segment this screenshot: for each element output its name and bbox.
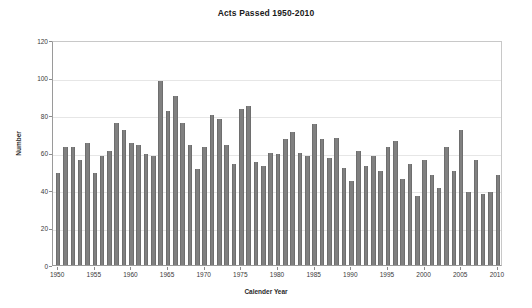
- bar: [151, 156, 156, 265]
- y-axis-tick-mark: [49, 154, 52, 155]
- bar: [268, 153, 273, 266]
- y-axis-tick-mark: [49, 79, 52, 80]
- chart-title: Acts Passed 1950-2010: [0, 8, 532, 18]
- chart-figure: Acts Passed 1950-2010 020406080100120 Nu…: [0, 0, 532, 308]
- bar: [305, 156, 310, 265]
- plot-area: [52, 41, 502, 266]
- bar: [202, 147, 207, 265]
- bar: [71, 147, 76, 265]
- x-axis-tick-mark: [314, 267, 315, 270]
- bar: [107, 151, 112, 265]
- x-axis-tick-label: 2010: [482, 271, 512, 278]
- y-axis-tick-labels: 020406080100120: [22, 41, 48, 266]
- bar: [144, 154, 149, 265]
- bar: [158, 81, 163, 265]
- y-axis-tick-mark: [49, 229, 52, 230]
- bar: [444, 147, 449, 265]
- y-axis-tick-label: 100: [26, 75, 48, 82]
- y-axis-tick-label: 40: [26, 188, 48, 195]
- x-axis-tick-label: 2000: [409, 271, 439, 278]
- x-axis-tick-mark: [57, 267, 58, 270]
- bar: [217, 119, 222, 265]
- x-axis-tick-label: 2005: [445, 271, 475, 278]
- bar: [246, 106, 251, 265]
- bar: [63, 147, 68, 265]
- x-axis-tick-mark: [424, 267, 425, 270]
- bar: [408, 164, 413, 265]
- bar: [298, 153, 303, 266]
- bar: [415, 196, 420, 265]
- x-axis-label: Calender Year: [0, 288, 532, 295]
- y-axis-tick-mark: [49, 41, 52, 42]
- x-axis-tick-mark: [387, 267, 388, 270]
- bar: [327, 158, 332, 265]
- x-axis-tick-label: 1950: [42, 271, 72, 278]
- bar: [386, 147, 391, 265]
- bar: [210, 115, 215, 265]
- bar: [356, 151, 361, 265]
- bar: [93, 173, 98, 265]
- x-axis-tick-label: 1955: [79, 271, 109, 278]
- bar: [129, 143, 134, 265]
- y-axis-tick-label: 120: [26, 38, 48, 45]
- x-axis-tick-labels: 1950195519601965197019751980198519901995…: [52, 267, 502, 281]
- y-axis-tick-label: 60: [26, 150, 48, 157]
- y-axis-tick-mark: [49, 266, 52, 267]
- bar: [276, 154, 281, 265]
- bar: [122, 130, 127, 265]
- bar: [239, 109, 244, 265]
- bar: [283, 139, 288, 265]
- x-axis-tick-label: 1985: [299, 271, 329, 278]
- x-axis-tick-mark: [350, 267, 351, 270]
- x-axis-tick-label: 1980: [262, 271, 292, 278]
- x-axis-tick-mark: [240, 267, 241, 270]
- bar: [452, 171, 457, 265]
- bar: [466, 192, 471, 265]
- bar: [474, 160, 479, 265]
- x-axis-tick-label: 1970: [189, 271, 219, 278]
- bar: [342, 168, 347, 266]
- bar: [188, 145, 193, 265]
- bar: [371, 156, 376, 265]
- bar: [488, 192, 493, 265]
- bar: [400, 179, 405, 265]
- x-axis-tick-label: 1975: [225, 271, 255, 278]
- x-axis-tick-label: 1960: [115, 271, 145, 278]
- bar: [290, 132, 295, 265]
- bar: [320, 139, 325, 265]
- x-axis-tick-label: 1965: [152, 271, 182, 278]
- y-axis-tick-mark: [49, 191, 52, 192]
- x-axis-tick-mark: [277, 267, 278, 270]
- bar: [114, 123, 119, 266]
- bar: [393, 141, 398, 265]
- x-axis-tick-mark: [94, 267, 95, 270]
- bar: [334, 138, 339, 266]
- bar: [496, 175, 501, 265]
- bar: [78, 160, 83, 265]
- bar: [437, 188, 442, 265]
- y-axis-tick-mark: [49, 116, 52, 117]
- bar: [459, 130, 464, 265]
- bar: [481, 194, 486, 265]
- bar: [349, 181, 354, 265]
- bar: [195, 169, 200, 265]
- x-axis-tick-label: 1990: [335, 271, 365, 278]
- bar: [173, 96, 178, 265]
- bar: [56, 173, 61, 265]
- bar: [378, 171, 383, 265]
- bar: [364, 166, 369, 265]
- x-axis-tick-mark: [204, 267, 205, 270]
- x-axis-tick-mark: [497, 267, 498, 270]
- bar: [100, 156, 105, 265]
- y-axis-label: Number: [15, 114, 22, 174]
- y-axis-tick-label: 80: [26, 113, 48, 120]
- x-axis-tick-mark: [130, 267, 131, 270]
- x-axis-tick-mark: [167, 267, 168, 270]
- x-axis-tick-label: 1995: [372, 271, 402, 278]
- bar: [232, 164, 237, 265]
- bar: [312, 124, 317, 265]
- bar: [85, 143, 90, 265]
- bar-series: [53, 42, 501, 265]
- bar: [180, 123, 185, 266]
- bar: [136, 145, 141, 265]
